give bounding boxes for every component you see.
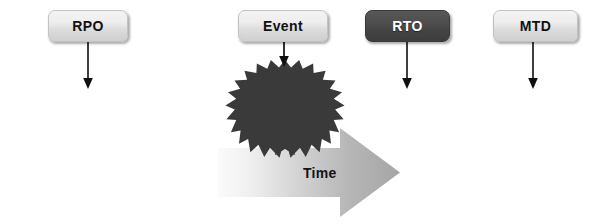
label-text-mtd: MTD — [520, 18, 552, 34]
label-text-rpo: RPO — [72, 18, 104, 34]
label-box-rpo[interactable]: RPO — [48, 10, 128, 42]
label-text-rto: RTO — [392, 18, 423, 34]
drop-arrow-rto — [402, 42, 412, 89]
event-starburst — [225, 60, 344, 158]
label-box-rto[interactable]: RTO — [365, 10, 450, 42]
time-arrow-label: Time — [303, 165, 337, 181]
label-text-event: Event — [263, 18, 303, 34]
drop-arrow-mtd — [528, 42, 538, 89]
label-box-event[interactable]: Event — [238, 10, 328, 42]
drop-arrow-rpo — [83, 42, 93, 89]
disaster-recovery-timeline-diagram: RPO Event RTO MTD Time — [0, 0, 594, 224]
label-box-mtd[interactable]: MTD — [493, 10, 578, 42]
